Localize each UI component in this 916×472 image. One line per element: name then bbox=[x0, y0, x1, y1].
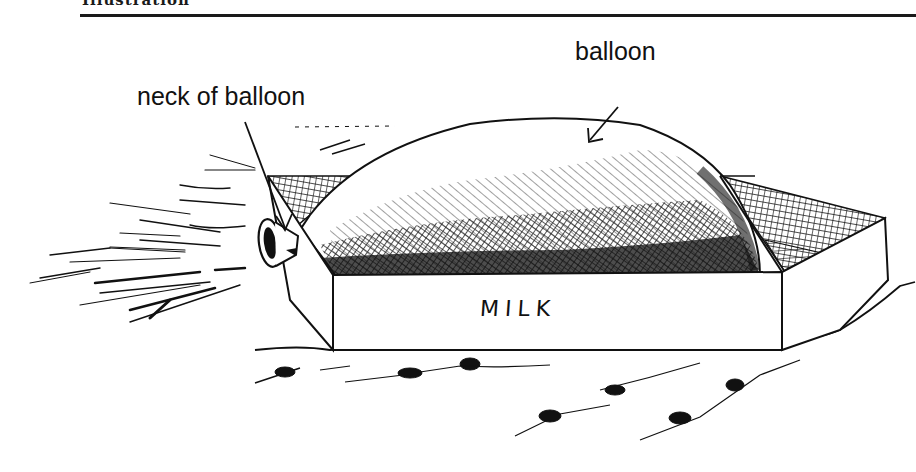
air-jet-lines bbox=[30, 155, 255, 322]
motion-streaks bbox=[295, 126, 395, 154]
neck-of-balloon-label: neck of balloon bbox=[137, 82, 305, 111]
wake-ripples bbox=[255, 358, 800, 440]
carton-front bbox=[333, 272, 782, 350]
neck-arrow bbox=[245, 122, 285, 228]
milk-carton-text: MILK bbox=[479, 296, 557, 321]
balloon-label: balloon bbox=[575, 37, 656, 66]
milk-carton-boat-illustration bbox=[0, 0, 916, 472]
